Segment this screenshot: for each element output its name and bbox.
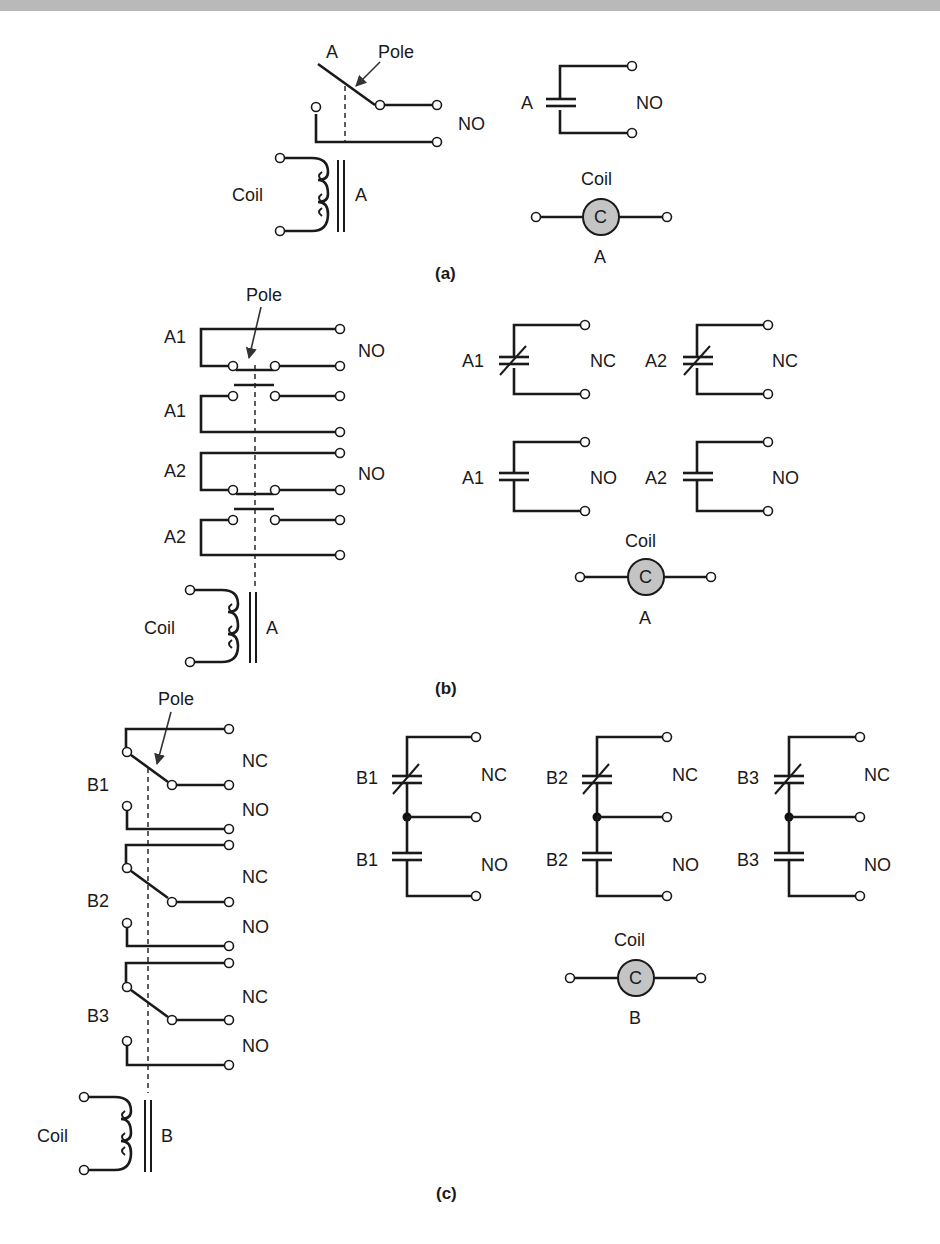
panel-b-schematic: A1 NC A2 NC A1 NO [462,321,799,629]
panel-a-pictorial: A Pole NO Coil A [232,42,485,236]
contact-label: B1 [356,850,378,870]
no-label: NO [636,93,663,113]
no-label: NO [242,800,269,820]
coil-title: Coil [614,930,645,950]
pole-label: Pole [378,42,414,62]
coil-title: Coil [581,169,612,189]
coil-id: B [161,1126,173,1146]
coil-id: A [266,618,278,638]
contact-label: A1 [164,327,186,347]
coil-symbol: C [629,968,642,988]
panel-a-schematic: A NO Coil C A [521,62,672,268]
coil-symbol: C [639,567,652,587]
coil-id: B [629,1008,641,1028]
contact-label: B1 [356,768,378,788]
no-label: NO [672,855,699,875]
nc-label: NC [672,765,698,785]
no-label: NO [458,114,485,134]
nc-label: NC [864,765,890,785]
nc-label: NC [772,351,798,371]
panel-b-pictorial: Pole A1 NO A1 [144,285,385,667]
no-label: NO [358,341,385,361]
caption-a: (a) [435,264,456,283]
panel-c: Pole B1 NC NO [37,689,891,1203]
pole-arm [318,64,375,105]
contact-label: B3 [87,1006,109,1026]
contact-label: B2 [546,768,568,788]
no-label: NO [864,855,891,875]
terminal [433,101,442,110]
no-label: NO [358,464,385,484]
contact-label: A2 [645,468,667,488]
contact-label: B1 [87,775,109,795]
coil-label: Coil [232,185,263,205]
contact-label: B3 [737,850,759,870]
contact-label: B3 [737,768,759,788]
no-label: NO [590,468,617,488]
coil-id: A [594,247,606,267]
relay-diagram: A Pole NO Coil A [0,0,940,1244]
nc-label: NC [242,751,268,771]
panel-c-pictorial: Pole B1 NC NO [37,689,269,1175]
coil-id: A [639,608,651,628]
nc-label: NC [481,765,507,785]
nc-label: NC [242,987,268,1007]
panel-a: A Pole NO Coil A [232,42,672,283]
panel-c-schematic: B1 B1 NC NO B2 B2 NC NO [356,733,891,1029]
coil-symbol: C [594,207,607,227]
contact-label: B2 [87,891,109,911]
coil-icon [186,586,257,667]
coil-id: A [355,185,367,205]
contact-label: A1 [462,351,484,371]
caption-b: (b) [435,679,457,698]
no-label: NO [772,468,799,488]
panel-b: Pole A1 NO A1 [144,285,799,698]
nc-label: NC [590,351,616,371]
coil-icon [80,1093,152,1175]
contact-label: A2 [164,461,186,481]
caption-c: (c) [436,1184,457,1203]
contact-label: A1 [164,401,186,421]
coil-label: Coil [144,618,175,638]
contact-label: A1 [462,468,484,488]
no-label: NO [242,1036,269,1056]
contact-label: A [521,93,533,113]
contact-label: A [326,42,338,62]
no-label: NO [242,917,269,937]
pole-label: Pole [246,285,282,305]
pole-label: Pole [158,689,194,709]
contact-label: A2 [645,351,667,371]
coil-title: Coil [625,531,656,551]
contact-label: A2 [164,527,186,547]
coil-label: Coil [37,1126,68,1146]
contact-label: B2 [546,850,568,870]
no-label: NO [481,855,508,875]
coil-icon [276,154,345,236]
nc-label: NC [242,867,268,887]
